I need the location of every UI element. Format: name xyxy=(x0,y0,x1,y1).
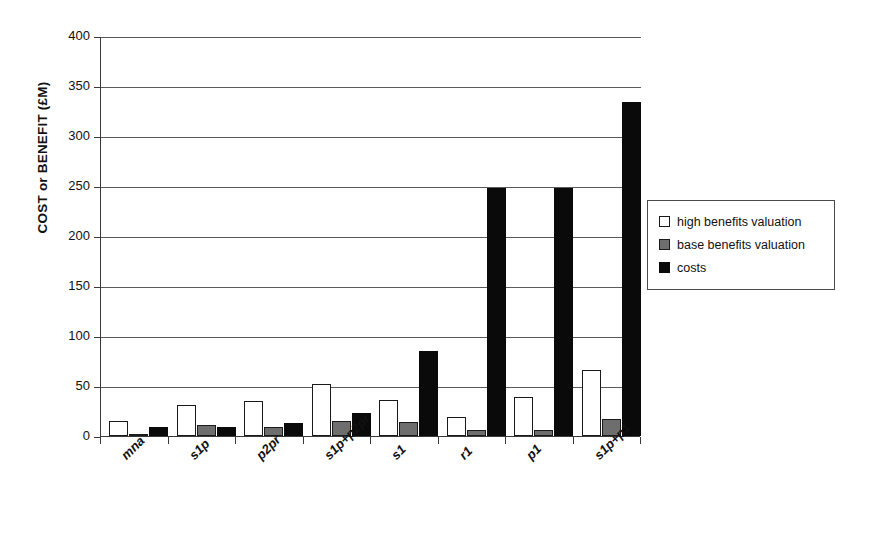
x-axis-tick-mark xyxy=(573,437,574,444)
x-axis-tick-mark xyxy=(640,437,641,444)
x-axis-tick-label: r1 xyxy=(456,443,475,462)
bar-group xyxy=(109,36,168,436)
bar-cost xyxy=(284,423,303,436)
bar-group xyxy=(582,36,641,436)
x-axis-tick-label: p1 xyxy=(523,441,544,462)
bar-cost xyxy=(622,102,641,436)
y-axis-tick-label: 300 xyxy=(52,128,90,143)
y-axis-tick-label: 400 xyxy=(52,28,90,43)
legend-label: base benefits valuation xyxy=(677,238,805,252)
bar-group xyxy=(244,36,303,436)
bar-base xyxy=(534,430,553,436)
bar-high xyxy=(379,400,398,436)
bar-chart: COST or BENEFIT (£M) 4003503002502001501… xyxy=(0,0,878,539)
bar-high xyxy=(582,370,601,436)
bar-cost xyxy=(554,188,573,436)
bar-group xyxy=(177,36,236,436)
y-axis-tick-label: 50 xyxy=(52,378,90,393)
legend-item: costs xyxy=(659,256,824,279)
bar-cost xyxy=(149,427,168,436)
bar-cost xyxy=(217,427,236,436)
x-axis-tick-mark xyxy=(100,437,101,444)
bar-high xyxy=(514,397,533,436)
y-axis-title: COST or BENEFIT (£M) xyxy=(35,28,50,288)
legend-item: high benefits valuation xyxy=(659,210,824,233)
y-axis-tick-label: 0 xyxy=(52,428,90,443)
y-axis-tick-label: 350 xyxy=(52,78,90,93)
bar-group xyxy=(447,36,506,436)
x-axis-tick-mark xyxy=(438,437,439,444)
y-axis-tick-label: 100 xyxy=(52,328,90,343)
bar-high xyxy=(244,401,263,436)
chart-legend: high benefits valuationbase benefits val… xyxy=(647,200,835,290)
x-axis-tick-mark xyxy=(235,437,236,444)
bar-group xyxy=(379,36,438,436)
plot-area xyxy=(100,37,640,437)
legend-swatch-icon xyxy=(659,239,670,250)
bar-group xyxy=(514,36,573,436)
y-axis-tick-label: 150 xyxy=(52,278,90,293)
bar-cost xyxy=(487,188,506,436)
x-axis-tick-mark xyxy=(505,437,506,444)
x-axis-tick-mark xyxy=(303,437,304,444)
bar-base xyxy=(399,422,418,436)
x-axis-tick-label: s1 xyxy=(388,442,409,463)
legend-swatch-icon xyxy=(659,216,670,227)
bar-group xyxy=(312,36,371,436)
bar-base xyxy=(197,425,216,436)
x-axis-tick-label: s1p xyxy=(186,436,212,462)
legend-label: costs xyxy=(677,261,706,275)
legend-swatch-icon xyxy=(659,262,670,273)
bar-high xyxy=(312,384,331,436)
bar-high xyxy=(447,417,466,436)
legend-label: high benefits valuation xyxy=(677,215,801,229)
bar-cost xyxy=(419,351,438,436)
bar-base xyxy=(467,430,486,436)
x-axis-tick-label: mna xyxy=(118,433,148,463)
bar-high xyxy=(177,405,196,436)
x-axis-tick-mark xyxy=(370,437,371,444)
bar-high xyxy=(109,421,128,436)
y-axis-tick-label: 200 xyxy=(52,228,90,243)
legend-item: base benefits valuation xyxy=(659,233,824,256)
x-axis-tick-mark xyxy=(168,437,169,444)
y-axis-tick-label: 250 xyxy=(52,178,90,193)
